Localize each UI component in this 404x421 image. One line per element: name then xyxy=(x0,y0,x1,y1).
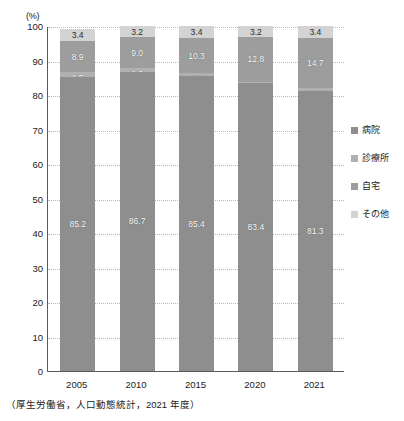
x-axis-tick-2005: 2005 xyxy=(47,380,107,390)
bar-segment-2020-home[interactable]: 12.8 xyxy=(238,37,273,81)
bar-segment-2021-other[interactable]: 3.4 xyxy=(298,26,333,38)
y-axis-tick-90: 90 xyxy=(3,57,43,67)
y-axis-tick-10: 10 xyxy=(3,333,43,343)
bar-value-2021-home: 14.7 xyxy=(298,59,333,68)
legend-swatch-icon-2 xyxy=(351,183,358,190)
legend-item-2[interactable]: 自宅 xyxy=(351,172,403,200)
bar-value-2010-other: 3.2 xyxy=(120,28,155,37)
bar-value-2015-other: 3.4 xyxy=(179,28,214,37)
bar-value-2005-home: 8.9 xyxy=(60,52,95,61)
legend-swatch-icon-3 xyxy=(351,211,358,218)
bar-segment-2015-home[interactable]: 10.3 xyxy=(179,38,214,74)
bar-segment-2005-other[interactable]: 3.4 xyxy=(60,29,95,41)
bar-value-2010-home: 9.0 xyxy=(120,48,155,57)
y-axis-tick-0: 0 xyxy=(3,367,43,377)
bar-2010[interactable]: 3.29.01.086.7 xyxy=(120,26,155,371)
source-caption: （厚生労働省，人口動態統計，2021 年度） xyxy=(6,399,200,411)
bar-2021[interactable]: 3.414.70.681.3 xyxy=(298,26,333,371)
plot-area: 3.48.91.585.23.29.01.086.73.410.30.985.4… xyxy=(47,27,344,372)
bar-segment-2010-hospital[interactable]: 86.7 xyxy=(120,72,155,371)
bar-value-2021-other: 3.4 xyxy=(298,28,333,37)
y-axis-unit-label: (%) xyxy=(26,11,39,21)
legend-label-1: 診療所 xyxy=(362,153,389,163)
y-axis-tick-20: 20 xyxy=(3,298,43,308)
bar-segment-2020-hospital[interactable]: 83.4 xyxy=(238,83,273,371)
bar-segment-2015-other[interactable]: 3.4 xyxy=(179,26,214,38)
y-axis-tick-70: 70 xyxy=(3,126,43,136)
legend-swatch-icon-1 xyxy=(351,155,358,162)
bar-segment-2005-hospital[interactable]: 85.2 xyxy=(60,77,95,371)
y-axis-tick-60: 60 xyxy=(3,160,43,170)
x-axis-tick-2020: 2020 xyxy=(225,380,285,390)
bar-segment-2010-other[interactable]: 3.2 xyxy=(120,26,155,37)
bar-value-2021-hospital: 81.3 xyxy=(298,226,333,235)
bar-2005[interactable]: 3.48.91.585.2 xyxy=(60,29,95,371)
bar-segment-2015-hospital[interactable]: 85.4 xyxy=(179,76,214,371)
x-axis-tick-2015: 2015 xyxy=(166,380,226,390)
legend-label-2: 自宅 xyxy=(362,181,380,191)
bar-segment-2010-home[interactable]: 9.0 xyxy=(120,37,155,68)
y-axis-tick-100: 100 xyxy=(3,22,43,32)
x-axis-tick-2021: 2021 xyxy=(284,380,344,390)
bar-value-2020-other: 3.2 xyxy=(238,28,273,37)
bar-value-2015-hospital: 85.4 xyxy=(179,219,214,228)
y-axis-tick-30: 30 xyxy=(3,264,43,274)
bar-segment-2021-home[interactable]: 14.7 xyxy=(298,38,333,89)
legend-item-3[interactable]: その他 xyxy=(351,200,403,228)
bar-segment-2020-other[interactable]: 3.2 xyxy=(238,26,273,37)
legend-item-1[interactable]: 診療所 xyxy=(351,144,403,172)
bar-2020[interactable]: 3.212.80.583.4 xyxy=(238,26,273,371)
bar-segment-2021-hospital[interactable]: 81.3 xyxy=(298,91,333,371)
y-axis-tick-50: 50 xyxy=(3,195,43,205)
bar-segment-2005-home[interactable]: 8.9 xyxy=(60,41,95,72)
x-axis-tick-2010: 2010 xyxy=(106,380,166,390)
bar-value-2020-home: 12.8 xyxy=(238,55,273,64)
legend-label-0: 病院 xyxy=(362,125,380,135)
bar-value-2005-hospital: 85.2 xyxy=(60,220,95,229)
bar-value-2010-hospital: 86.7 xyxy=(120,217,155,226)
legend-item-0[interactable]: 病院 xyxy=(351,116,403,144)
y-axis-tick-40: 40 xyxy=(3,229,43,239)
chart-legend: 病院診療所自宅その他 xyxy=(351,116,403,228)
bar-2015[interactable]: 3.410.30.985.4 xyxy=(179,26,214,371)
bar-value-2005-other: 3.4 xyxy=(60,31,95,40)
chart-figure: (%) 1009080706050403020100 3.48.91.585.2… xyxy=(0,0,404,421)
legend-label-3: その他 xyxy=(362,209,389,219)
bar-value-2015-home: 10.3 xyxy=(179,51,214,60)
y-axis-tick-80: 80 xyxy=(3,91,43,101)
bar-value-2020-hospital: 83.4 xyxy=(238,223,273,232)
legend-swatch-icon-0 xyxy=(351,127,358,134)
